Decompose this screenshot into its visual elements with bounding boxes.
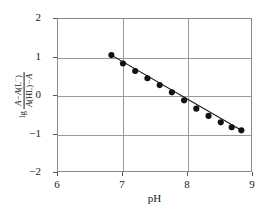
numerator-term-a: A [13, 101, 23, 106]
data-point [181, 97, 187, 103]
tick-mark-x [122, 172, 123, 176]
data-point [169, 89, 175, 95]
x-axis-label: pH [57, 192, 252, 204]
data-point [205, 113, 211, 119]
chart-screenshot: lg A−A(L−) A(HL)−A 210−1−26789 pH [0, 0, 273, 216]
tick-mark-y [53, 134, 57, 135]
plot-area [57, 18, 252, 172]
data-point [218, 119, 224, 125]
tick-label-x: 8 [167, 179, 207, 190]
tick-mark-y [53, 57, 57, 58]
denominator-term-a: A [23, 102, 33, 107]
data-point [238, 127, 244, 133]
data-point [108, 52, 114, 58]
tick-mark-y [53, 18, 57, 19]
tick-mark-y [53, 95, 57, 96]
data-point [120, 60, 126, 66]
tick-label-x: 6 [37, 179, 77, 190]
data-point [229, 124, 235, 130]
y-axis-log-operator: lg [17, 111, 27, 118]
tick-label-y: −2 [0, 166, 49, 177]
tick-label-x: 7 [102, 179, 142, 190]
data-series [58, 19, 251, 171]
numerator-species-close: ) [13, 75, 23, 78]
denominator-term-b: A [23, 74, 33, 79]
tick-label-y: 2 [0, 12, 49, 23]
data-point [144, 75, 150, 81]
tick-mark-x [252, 172, 253, 176]
tick-label-y: −1 [0, 128, 49, 139]
numerator-species-charge: − [12, 78, 19, 82]
tick-mark-x [57, 172, 58, 176]
trendline [111, 55, 241, 130]
tick-label-y: 0 [0, 89, 49, 100]
denominator-minus: − [23, 79, 33, 85]
data-point [193, 106, 199, 112]
tick-label-y: 1 [0, 51, 49, 62]
tick-mark-x [187, 172, 188, 176]
tick-label-x: 9 [232, 179, 272, 190]
data-point [132, 68, 138, 74]
data-point [157, 82, 163, 88]
